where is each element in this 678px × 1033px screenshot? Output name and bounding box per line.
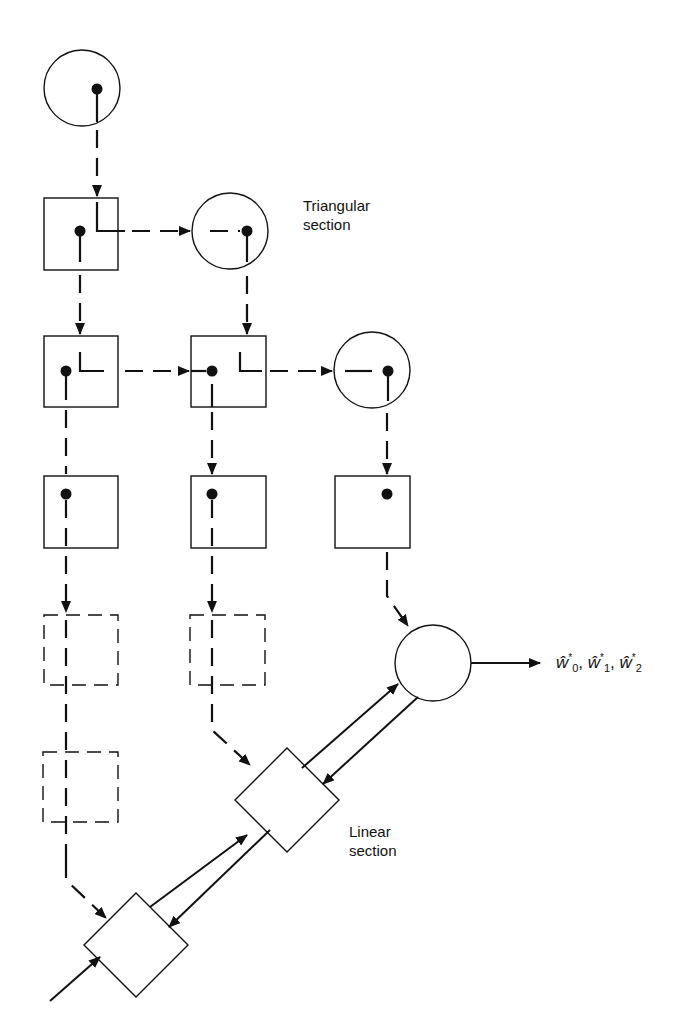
linear-label-line2: section — [349, 841, 397, 860]
dashed-cell-6-1 — [43, 752, 118, 822]
linear-label-line1: Linear — [349, 822, 397, 841]
dot — [207, 366, 218, 377]
internal-cell-4-3 — [335, 476, 410, 548]
dashed-cell-5-1 — [44, 615, 118, 685]
final-circle-cell — [395, 625, 471, 701]
separator: , — [578, 653, 587, 672]
triangular-label-line1: Triangular — [303, 196, 370, 215]
dot — [207, 489, 218, 500]
linear-cell-2 — [84, 893, 188, 997]
w1-symbol: ŵ — [588, 653, 600, 672]
separator: , — [610, 653, 619, 672]
systolic-array-diagram — [0, 0, 678, 1033]
linear-cell-1 — [235, 748, 339, 852]
triangular-section-label: Triangular section — [303, 196, 370, 234]
dashed-cell-5-2 — [190, 615, 265, 685]
w2-sub: 2 — [636, 662, 642, 674]
internal-cell-4-2 — [191, 476, 266, 548]
w2-symbol: ŵ — [620, 653, 632, 672]
linear-section-label: Linear section — [349, 822, 397, 860]
internal-cell-4-1 — [44, 476, 118, 548]
boundary-cell-1 — [44, 50, 120, 126]
triangular-label-line2: section — [303, 215, 370, 234]
dot — [382, 489, 393, 500]
w0-symbol: ŵ — [556, 653, 568, 672]
dot — [61, 489, 72, 500]
boundary-cell-2 — [192, 193, 268, 269]
output-weights-label: ŵ*0, ŵ*1, ŵ*2 — [556, 652, 642, 674]
